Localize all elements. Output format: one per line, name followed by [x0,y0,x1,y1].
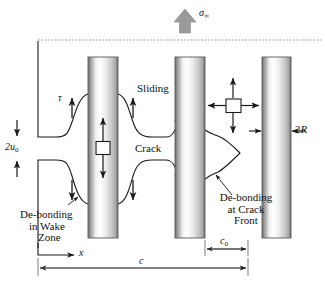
front-debond-line-1: De-bonding [203,192,289,204]
crack-label: Crack [135,143,161,155]
front-debond-line-3: Front [203,215,289,227]
crack-front-wedge [205,130,240,179]
crack-length-label: c [139,256,143,267]
crack-face-upper-seg1 [38,94,88,137]
wake-debond-line-1: De-bonding [20,209,73,221]
crack-opening-label: 2u0 [5,142,19,154]
front-debond-label: De-bonding at Crack Front [203,192,289,227]
crack-face-upper-seg2 [118,94,175,137]
sliding-label: Sliding [137,83,169,95]
wake-debond-label: De-bonding in Wake Zone [20,209,73,244]
front-zone-length-label: c0 [220,236,228,248]
shear-stress-label: τ [58,93,62,104]
x-axis-label: x [79,248,83,259]
x-axis-indicator [38,243,74,255]
fiber-diameter-label: 2R [295,124,307,136]
wake-debond-leader [68,197,78,205]
wake-debond-line-3: Zone [20,232,73,244]
crack-face-lower-seg2 [118,160,175,204]
fiber-2 [175,57,205,238]
applied-stress-arrow [174,9,196,33]
crack-face-lower-seg1 [38,160,88,204]
applied-stress-label: σ∞ [199,8,209,20]
biaxial-stress-element [208,78,259,133]
